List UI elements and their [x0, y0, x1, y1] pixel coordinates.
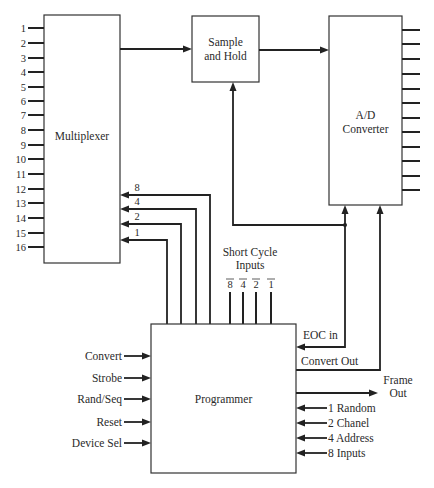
mux-input-label: 16 [16, 242, 27, 253]
mux-input-label: 6 [21, 96, 26, 107]
adc-label-line2: Converter [343, 123, 389, 135]
mux-to-sample-hold-arrow [120, 46, 192, 53]
short-cycle-pin-label: 1 [268, 279, 273, 290]
mode-input-label: 4 Address [328, 432, 374, 444]
address-label: 2 [134, 211, 139, 222]
mux-input-pins [28, 28, 44, 247]
frame-out-label-line2: Out [389, 387, 407, 399]
mux-input-label: 5 [21, 82, 26, 93]
short-cycle-pin-label: 2 [253, 279, 258, 290]
frame-out-label-line1: Frame [383, 374, 412, 386]
mux-input-label: 12 [16, 184, 27, 195]
adc-block: A/D Converter [329, 16, 402, 205]
mux-input-label: 8 [21, 125, 26, 136]
programmer-block: Programmer [151, 324, 296, 473]
adc-label-line1: A/D [356, 109, 376, 121]
short-cycle-inputs: Short Cycle Inputs 8 4 2 1 [223, 246, 278, 324]
mux-input-label: 7 [21, 110, 26, 121]
mux-input-label: 4 [21, 67, 27, 78]
short-cycle-title-line2: Inputs [236, 259, 265, 272]
multiplexer-block: Multiplexer [44, 15, 120, 263]
rand-seq-input-label: Rand/Seq [77, 393, 122, 406]
address-label: 4 [134, 196, 140, 207]
mux-input-label: 14 [16, 213, 27, 224]
block-diagram: Multiplexer 1 2 3 4 5 6 7 8 9 10 11 12 1… [0, 0, 434, 488]
sample-hold-to-adc-arrow [259, 47, 329, 54]
mode-input-label: 2 Chanel [328, 417, 369, 429]
mux-input-labels: 1 2 3 4 5 6 7 8 9 10 11 12 13 14 15 16 [16, 23, 27, 253]
address-line-labels: 8 4 2 1 [134, 182, 140, 238]
programmer-right-io: EOC in Convert Out Frame Out 1 Random 2 … [296, 329, 413, 460]
short-cycle-pin-label: 4 [240, 279, 246, 290]
sample-hold-label-line1: Sample [208, 36, 243, 49]
short-cycle-pin-label: 8 [227, 279, 232, 290]
mux-input-label: 13 [16, 198, 27, 209]
reset-input-label: Reset [96, 416, 122, 428]
convert-out-wire [296, 205, 384, 370]
short-cycle-title-line1: Short Cycle [223, 246, 278, 259]
adc-output-pins [402, 30, 420, 190]
mux-input-label: 1 [21, 23, 26, 34]
address-label: 1 [134, 227, 139, 238]
mux-input-label: 10 [16, 154, 27, 165]
address-label: 8 [134, 182, 139, 193]
device-sel-input-label: Device Sel [72, 437, 122, 449]
programmer-label: Programmer [195, 393, 253, 406]
mode-input-label: 8 Inputs [328, 447, 366, 460]
convert-input-label: Convert [85, 350, 123, 362]
mux-input-label: 11 [16, 169, 26, 180]
sample-hold-block: Sample and Hold [192, 16, 259, 82]
mux-input-label: 9 [21, 140, 26, 151]
mux-input-label: 15 [16, 228, 27, 239]
mode-input-label: 1 Random [328, 402, 376, 414]
eoc-in-label: EOC in [303, 329, 338, 341]
sample-hold-label-line2: and Hold [204, 50, 247, 62]
programmer-left-inputs: Convert Strobe Rand/Seq Reset Device Sel [72, 350, 151, 449]
multiplexer-label: Multiplexer [55, 130, 109, 143]
convert-out-label: Convert Out [301, 355, 359, 367]
mux-input-label: 3 [21, 53, 26, 64]
strobe-input-label: Strobe [92, 372, 122, 384]
mux-input-label: 2 [21, 38, 26, 49]
